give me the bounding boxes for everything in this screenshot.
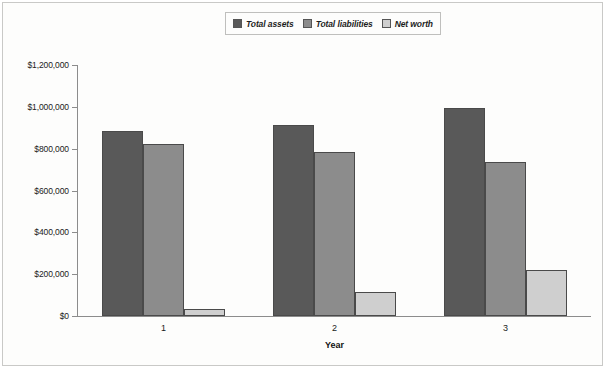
y-axis-tick-label: $800,000 (34, 144, 69, 154)
y-axis-tick-label: $600,000 (34, 186, 69, 196)
chart-container: Total assets Total liabilities Net worth… (2, 2, 603, 366)
bar (102, 131, 143, 316)
x-axis-tick-label: 2 (332, 323, 337, 333)
x-axis-tick-label: 3 (503, 323, 508, 333)
legend-item-total-liabilities: Total liabilities (303, 19, 373, 29)
legend-item-net-worth: Net worth (382, 19, 433, 29)
y-axis-tick (72, 232, 78, 233)
legend-swatch-icon (233, 19, 242, 28)
bar (273, 125, 314, 316)
chart-legend: Total assets Total liabilities Net worth (225, 12, 441, 35)
y-axis-tick-label: $1,200,000 (27, 60, 69, 70)
y-axis-tick (72, 107, 78, 108)
x-axis-title: Year (325, 340, 344, 350)
y-axis-tick-label: $200,000 (34, 269, 69, 279)
legend-label: Net worth (395, 19, 433, 29)
legend-item-total-assets: Total assets (233, 19, 294, 29)
y-axis-tick-label: $400,000 (34, 227, 69, 237)
y-axis-tick (72, 191, 78, 192)
bar (526, 270, 567, 316)
y-axis-tick (72, 149, 78, 150)
y-axis-tick (72, 274, 78, 275)
bar (314, 152, 355, 316)
legend-swatch-icon (303, 19, 312, 28)
legend-label: Total assets (246, 19, 294, 29)
y-axis-tick-label: $1,000,000 (27, 102, 69, 112)
bar (143, 144, 184, 316)
bar (485, 162, 526, 316)
bar (355, 292, 396, 316)
y-axis-tick (72, 65, 78, 66)
y-axis-tick (72, 316, 78, 317)
bar (444, 108, 485, 316)
legend-swatch-icon (382, 19, 391, 28)
y-axis-tick-label: $0 (60, 311, 69, 321)
plot-area: $0$200,000$400,000$600,000$800,000$1,000… (77, 65, 591, 317)
bar (184, 309, 225, 316)
x-axis-tick-label: 1 (161, 323, 166, 333)
legend-label: Total liabilities (316, 19, 373, 29)
